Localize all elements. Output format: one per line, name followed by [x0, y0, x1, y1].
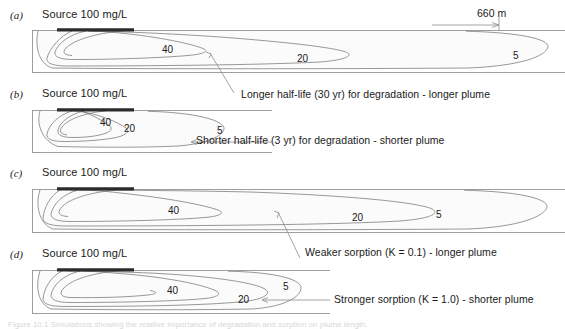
panel-b-annotation: Shorter half-life (3 yr) for degradation… [196, 134, 445, 146]
panel-a-graphic: 40 20 5 [0, 0, 565, 90]
panel-a-contour-label-40: 40 [162, 44, 174, 55]
panel-d-graphic: 40 20 5 [0, 245, 565, 325]
panel-c-plume-fill [38, 190, 547, 229]
panel-d-contour-label-5: 5 [283, 281, 289, 292]
panel-a-contour-label-20: 20 [297, 53, 309, 64]
panel-b-contour-label-40: 40 [100, 117, 112, 128]
panel-d-contour-label-20: 20 [238, 294, 250, 305]
panel-b-graphic: 40 20 5 [0, 85, 565, 175]
panel-b-contour-label-20: 20 [124, 123, 136, 134]
panel-a-contour-label-5: 5 [513, 50, 519, 61]
panel-c-contour-label-20: 20 [352, 212, 364, 223]
figure-caption: Figure 10.1 Simulations showing the rela… [8, 320, 560, 329]
panel-c-contour-label-40: 40 [168, 205, 180, 216]
scale-bar [432, 17, 499, 30]
panel-d-contour-label-40: 40 [167, 285, 179, 296]
panel-c-graphic: 40 20 5 [0, 163, 565, 258]
panel-c-contour-label-5: 5 [436, 209, 442, 220]
panel-d-annotation: Stronger sorption (K = 1.0) - shorter pl… [334, 293, 534, 305]
panel-a-plume-fill [37, 31, 548, 68]
